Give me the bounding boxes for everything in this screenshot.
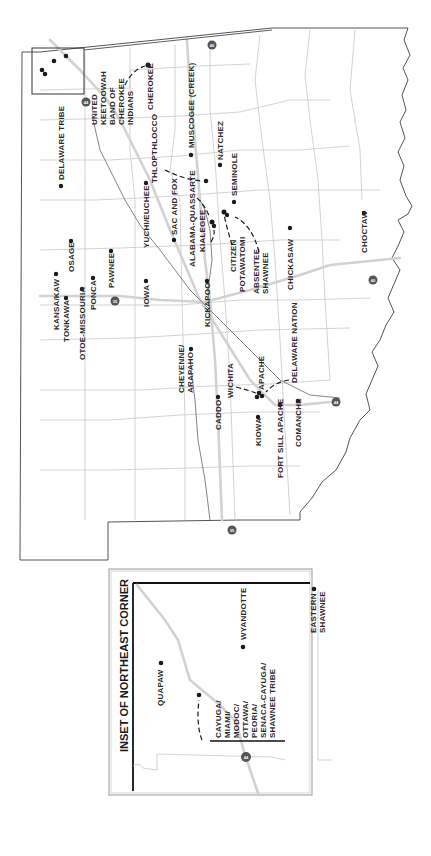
- svg-text:40: 40: [371, 278, 376, 283]
- inset-northeast-corner: INSET OF NORTHEAST CORNER 44 QUAPAW WYAN…: [109, 569, 332, 795]
- svg-text:OTTAWA/: OTTAWA/: [241, 700, 250, 738]
- label-caddo: CADDO: [214, 400, 223, 430]
- highway-shield-35-south: 35: [228, 526, 237, 535]
- label-kickapoo: KICKAPOO: [203, 282, 212, 327]
- svg-text:PEORIA/: PEORIA/: [250, 703, 259, 738]
- marker-seminole: [232, 200, 236, 204]
- marker-yuchi: [144, 181, 148, 185]
- arrow-citizen: [224, 214, 232, 245]
- svg-text:44: 44: [334, 400, 339, 405]
- marker-tonkawa: [64, 296, 68, 300]
- label-yuchi: YUCHI/EUCHEE: [142, 185, 151, 248]
- marker-chickasaw: [288, 226, 292, 230]
- svg-text:CHEYENNE/: CHEYENNE/: [177, 344, 186, 393]
- marker-wyandotte: [241, 645, 246, 650]
- svg-text:SHAWNEE TRIBE: SHAWNEE TRIBE: [268, 668, 277, 738]
- marker-ponca: [91, 276, 95, 280]
- svg-text:CAYUGA/: CAYUGA/: [214, 700, 223, 738]
- label-chickasaw: CHICKASAW: [286, 239, 295, 290]
- label-wichita: WICHITA: [226, 363, 235, 398]
- label-apache: APACHE: [257, 355, 266, 390]
- arrow-kialegee: [211, 230, 214, 242]
- label-comanche: COMANCHE: [294, 398, 303, 447]
- svg-text:POTAWATOMI: POTAWATOMI: [238, 237, 247, 292]
- svg-text:35: 35: [113, 299, 118, 304]
- label-absentee-shawnee: ABSENTEE SHAWNEE: [252, 248, 270, 294]
- svg-text:40: 40: [210, 43, 215, 48]
- svg-text:35: 35: [230, 528, 235, 533]
- svg-text:MIAMI/: MIAMI/: [223, 710, 232, 738]
- highway-shield-40: 40: [208, 41, 217, 50]
- label-muscogee: MUSCOGEE (CREEK): [187, 62, 196, 148]
- svg-text:EASTERN: EASTERN: [309, 593, 318, 633]
- marker-cayuga-group: [197, 693, 202, 698]
- svg-text:ABSENTEE: ABSENTEE: [252, 248, 261, 294]
- marker-caddo: [216, 395, 220, 399]
- label-otoe: OTOE-MISSOURIA: [78, 287, 87, 360]
- arrow-ukb-to-cherokee: [125, 66, 145, 85]
- marker-cheyenne: [189, 347, 193, 351]
- highway-shield-44-south: 44: [332, 398, 341, 407]
- label-pawnee: PAWNEE: [107, 252, 116, 288]
- svg-text:KEETOOWAH: KEETOOWAH: [99, 71, 108, 125]
- marker-kansa: [54, 272, 58, 276]
- marker-eastern-shawnee: [312, 587, 317, 592]
- label-iowa: IOWA: [142, 285, 151, 307]
- svg-text:MODOC/: MODOC/: [232, 703, 241, 738]
- label-kansa: KANSA/KAW: [52, 279, 61, 330]
- label-alabama-quassarte: ALABAMA-QUASSARTE: [188, 170, 197, 267]
- svg-text:BAND OF: BAND OF: [108, 87, 117, 125]
- oklahoma-tribal-nations-map: 44 40 35 40 44 35: [0, 0, 431, 856]
- arrow-delaware-nation: [266, 380, 289, 392]
- svg-text:ARAPAHO: ARAPAHO: [186, 352, 195, 393]
- marker-delaware-tribe: [59, 184, 63, 188]
- label-kialegee: KIALEGEE: [198, 209, 207, 252]
- label-united-keetoowah-band: UNITED KEETOOWAH BAND OF CHEROKEE INDIAN…: [90, 71, 135, 125]
- marker-pawnee: [109, 249, 113, 253]
- label-choctaw: CHOCTAW: [360, 211, 369, 253]
- label-sac-fox: SAC AND FOX: [170, 178, 179, 235]
- label-osage: OSAGE: [67, 242, 76, 272]
- label-natchez: NATCHEZ: [216, 121, 225, 160]
- label-cheyenne-arapaho: CHEYENNE/ ARAPAHO: [177, 344, 195, 393]
- label-tonkawa: TONKAWA: [62, 300, 71, 342]
- label-fort-sill: FORT SILL APACHE: [276, 398, 285, 478]
- label-quapaw: QUAPAW: [156, 669, 165, 706]
- marker-sac-fox: [172, 238, 176, 242]
- arrow-wichita: [236, 387, 256, 393]
- inset-title: INSET OF NORTHEAST CORNER: [118, 579, 130, 752]
- marker-muscogee: [189, 153, 193, 157]
- highway-shield-35: 35: [111, 297, 120, 306]
- label-delaware-nation: DELAWARE NATION: [290, 302, 299, 383]
- highway-shield-40-east: 40: [369, 276, 378, 285]
- svg-text:SENACA-CAYUGA/: SENACA-CAYUGA/: [259, 662, 268, 738]
- marker-natchez: [218, 163, 222, 167]
- label-seminole: SEMINOLE: [230, 152, 239, 196]
- label-thlopthlocco: THLOPTHLOCCO: [150, 114, 159, 183]
- svg-text:UNITED: UNITED: [90, 94, 99, 125]
- svg-text:SHAWNEE: SHAWNEE: [318, 591, 327, 633]
- svg-text:SHAWNEE: SHAWNEE: [261, 252, 270, 294]
- svg-text:INDIANS: INDIANS: [126, 90, 135, 125]
- label-ponca: PONCA: [89, 280, 98, 310]
- label-eastern-shawnee: EASTERN SHAWNEE: [309, 591, 327, 633]
- label-delaware-tribe: DELAWARE TRIBE: [57, 105, 66, 180]
- marker-quapaw: [159, 661, 164, 666]
- label-kiowa: KIOWA: [254, 418, 263, 446]
- svg-text:CITIZEN: CITIZEN: [229, 239, 238, 272]
- svg-text:44: 44: [244, 755, 249, 760]
- svg-text:44: 44: [84, 100, 89, 105]
- label-cherokee: CHEROKEE: [146, 63, 155, 110]
- marker-iowa: [144, 279, 148, 283]
- label-wyandotte: WYANDOTTE: [239, 587, 248, 640]
